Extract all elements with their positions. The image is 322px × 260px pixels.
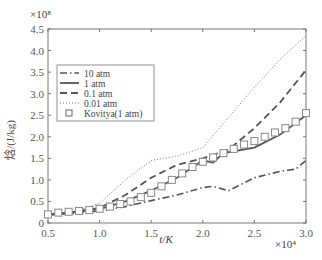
- kovitya-marker: [168, 176, 175, 183]
- kovitya-marker: [75, 207, 82, 214]
- y-multiplier: ×10⁸: [30, 8, 51, 20]
- y-tick-label: 1.5: [30, 152, 44, 164]
- y-tick-label: 0: [39, 217, 45, 229]
- kovitya-marker: [86, 207, 93, 214]
- series-line: [48, 115, 306, 214]
- legend-entry: 1 atm: [84, 79, 106, 89]
- y-tick-label: 2.0: [30, 131, 44, 143]
- enthalpy-chart: 0.51.01.52.02.53.000.51.01.52.02.53.03.5…: [0, 0, 322, 260]
- kovitya-marker: [272, 129, 279, 136]
- kovitya-marker: [117, 201, 124, 208]
- data-series: [45, 36, 310, 218]
- kovitya-marker: [148, 189, 155, 196]
- x-tick-label: 1.0: [93, 227, 107, 239]
- x-tick-label: 2.0: [196, 227, 210, 239]
- kovitya-marker: [96, 205, 103, 212]
- kovitya-marker: [241, 141, 248, 148]
- y-tick-label: 4.0: [30, 45, 44, 57]
- kovitya-marker: [179, 170, 186, 177]
- kovitya-marker: [282, 125, 289, 132]
- x-tick-label: 2.5: [248, 227, 262, 239]
- legend: 10 atm1 atm0.1 atm0.01 atmKovitya(1 atm): [57, 65, 154, 121]
- y-axis-label: 焓/(J/kg): [3, 120, 17, 160]
- kovitya-marker: [45, 211, 52, 218]
- kovitya-marker: [55, 209, 62, 216]
- y-tick-label: 2.5: [30, 109, 44, 121]
- legend-entry: Kovitya(1 atm): [84, 109, 142, 120]
- legend-entry: 0.1 atm: [84, 89, 113, 99]
- kovitya-marker: [189, 163, 196, 170]
- x-axis-label: t/K: [159, 233, 173, 245]
- kovitya-marker: [199, 158, 206, 165]
- x-tick-label: 1.5: [144, 227, 158, 239]
- tick-labels: 0.51.01.52.02.53.000.51.01.52.02.53.03.5…: [30, 23, 313, 239]
- y-tick-label: 4.5: [30, 23, 44, 35]
- y-tick-label: 3.5: [30, 66, 44, 78]
- y-tick-label: 0.5: [30, 195, 44, 207]
- series-line: [48, 36, 306, 215]
- kovitya-marker: [220, 150, 227, 157]
- y-tick-label: 3.0: [30, 88, 44, 100]
- kovitya-marker: [303, 110, 310, 117]
- kovitya-marker: [292, 118, 299, 125]
- kovitya-marker: [65, 208, 72, 215]
- kovitya-marker: [127, 198, 134, 205]
- kovitya-marker: [158, 183, 165, 190]
- kovitya-marker: [106, 203, 113, 210]
- kovitya-marker: [230, 145, 237, 152]
- kovitya-marker: [137, 194, 144, 201]
- x-tick-label: 3.0: [299, 227, 313, 239]
- y-tick-label: 1.0: [30, 174, 44, 186]
- plot-axes: [48, 29, 306, 223]
- x-multiplier: ×10⁴: [275, 238, 296, 250]
- legend-entry: 0.01 atm: [84, 99, 118, 109]
- kovitya-marker: [261, 133, 268, 140]
- kovitya-marker: [251, 138, 258, 145]
- kovitya-marker: [210, 154, 217, 161]
- legend-entry: 10 atm: [84, 69, 111, 79]
